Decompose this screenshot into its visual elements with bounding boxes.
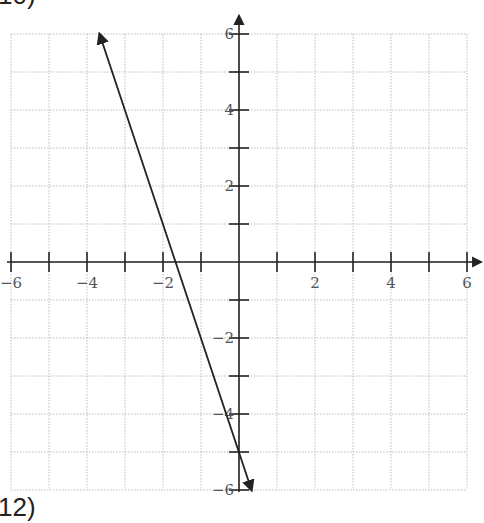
y-tick-label: −6	[212, 481, 234, 499]
x-tick-label: 6	[462, 274, 472, 292]
x-tick-label: −4	[76, 274, 98, 292]
x-tick-label: −6	[0, 274, 22, 292]
y-tick-label: 2	[224, 177, 234, 195]
y-tick-label: −2	[212, 329, 234, 347]
axes	[7, 16, 481, 492]
y-tick-label: 4	[224, 101, 234, 119]
x-tick-label: 4	[386, 274, 396, 292]
problem-number-top: 10)	[0, 0, 36, 11]
y-tick-label: 6	[224, 25, 234, 43]
problem-number-bottom: 12)	[0, 492, 36, 523]
y-tick-label: −4	[212, 405, 234, 423]
x-tick-label: −2	[152, 274, 174, 292]
x-tick-label: 2	[310, 274, 320, 292]
